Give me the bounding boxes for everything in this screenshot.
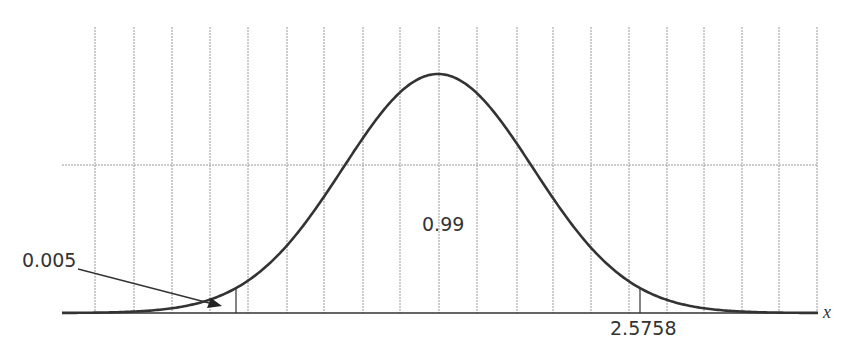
center-area-label: 0.99 <box>422 213 464 235</box>
normal-density-curve <box>62 74 818 313</box>
left-tail-area-label: 0.005 <box>22 249 76 271</box>
critical-value-label: 2.5758 <box>610 317 676 339</box>
normal-distribution-figure: 0.005 0.99 2.5758 x <box>0 0 842 360</box>
grid-lines <box>62 27 818 313</box>
tail-annotation-arrow <box>78 269 213 304</box>
x-axis-label: x <box>822 302 831 322</box>
